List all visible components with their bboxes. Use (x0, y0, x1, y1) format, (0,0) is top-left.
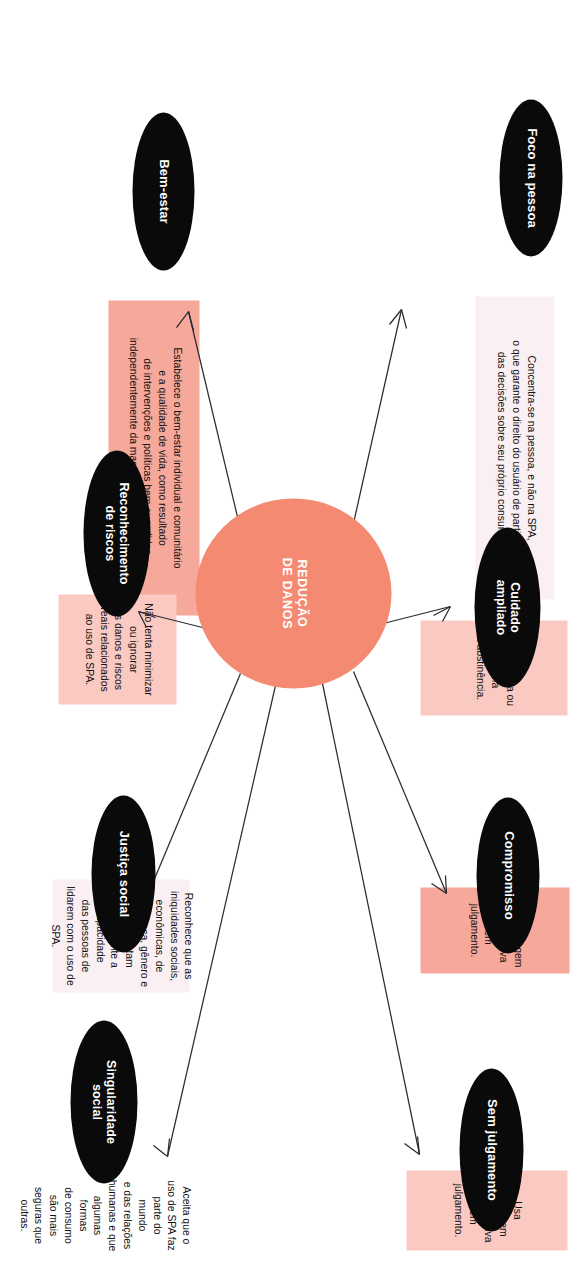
node-label-compromisso: Compromisso (500, 831, 515, 920)
node-foco-na-pessoa[interactable]: Foco na pessoa (499, 99, 562, 256)
node-cuidado-ampliado[interactable]: Cuidado ampliado (474, 527, 540, 687)
diagram-rotated-world: REDUÇÃO DE DANOS Foco na pessoa Concentr… (0, 0, 587, 1266)
diagram-canvas: REDUÇÃO DE DANOS Foco na pessoa Concentr… (0, 0, 587, 1266)
node-label-reconhecimento-de-riscos: Reconhecimento de riscos (103, 482, 131, 584)
node-label-cuidado-ampliado: Cuidado ampliado (493, 579, 521, 635)
node-reconhecimento-de-riscos[interactable]: Reconhecimento de riscos (83, 450, 150, 616)
node-compromisso[interactable]: Compromisso (476, 797, 539, 953)
node-label-justica-social: Justiça social (116, 830, 131, 917)
node-justica-social[interactable]: Justiça social (91, 795, 155, 952)
center-node-reducao-de-danos[interactable]: REDUÇÃO DE DANOS (195, 498, 391, 688)
node-bem-estar[interactable]: Bem-estar (132, 112, 194, 270)
arrow-to-singularidade-social (153, 685, 275, 1156)
arrow-to-sem-julgamento (322, 683, 419, 1154)
node-singularidade-social[interactable]: Singularidade social (70, 1020, 137, 1183)
node-label-foco-na-pessoa: Foco na pessoa (523, 128, 538, 228)
node-label-sem-julgamento: Sem julgamento (484, 1099, 499, 1201)
center-node-label: REDUÇÃO DE DANOS (278, 557, 309, 629)
node-label-singularidade-social: Singularidade social (90, 1060, 118, 1144)
node-sem-julgamento[interactable]: Sem julgamento (459, 1068, 523, 1231)
arrow-to-compromisso (353, 671, 446, 893)
node-label-bem-estar: Bem-estar (156, 159, 171, 224)
